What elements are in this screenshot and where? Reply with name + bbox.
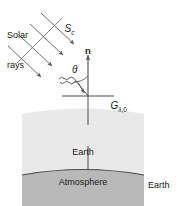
label-normal-vector: n <box>85 46 91 57</box>
label-zenith-angle: θ <box>72 64 77 75</box>
label-solar-constant-subscript: c <box>71 29 74 36</box>
label-solar-rays-line2: rays <box>7 60 28 70</box>
label-earth-surface-line1: Earth <box>148 180 178 190</box>
label-solar-rays: Solar rays <box>7 10 28 81</box>
label-spectral-irradiance: Gλ,0 <box>105 89 127 113</box>
wavefront-tick-3 <box>28 40 40 52</box>
wavy-ray-lower <box>60 81 84 93</box>
label-solar-constant: Sc <box>59 12 74 36</box>
label-solar-rays-line1: Solar <box>7 30 28 40</box>
label-earth-atmosphere: Earth Atmosphere <box>53 127 113 198</box>
label-earth-surface: Earth surface <box>148 160 178 206</box>
label-irradiance-subscript-zero: 0 <box>123 106 127 113</box>
label-earth-atmosphere-line2: Atmosphere <box>53 177 113 187</box>
label-earth-atmosphere-line1: Earth <box>53 147 113 157</box>
wavefront-tick-2 <box>39 29 51 41</box>
